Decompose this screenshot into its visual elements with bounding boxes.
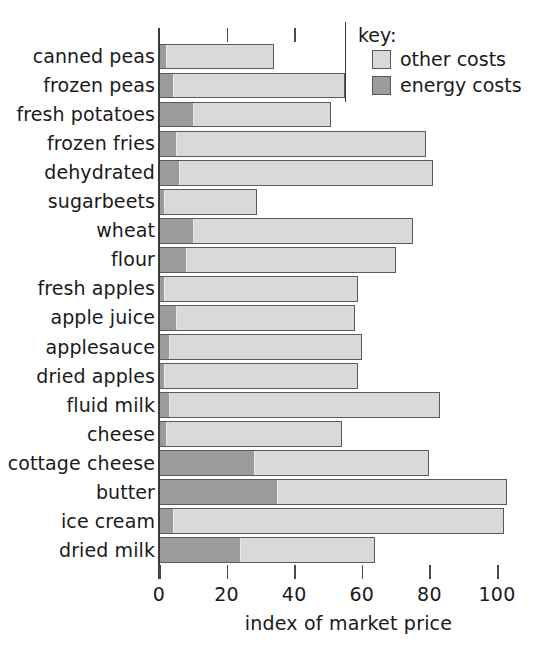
bar-row: ice cream [0, 507, 547, 536]
bar-segment-other-costs [167, 422, 342, 446]
x-tick-label: 20 [214, 583, 239, 605]
bar-row: apple juice [0, 303, 547, 332]
bar-segment-other-costs [165, 364, 358, 388]
category-label: cottage cheese [0, 449, 155, 478]
category-label: applesauce [0, 333, 155, 362]
bar-row: fresh apples [0, 274, 547, 303]
bar-segment-energy-costs [160, 335, 170, 359]
bar-segment-energy-costs [160, 161, 180, 185]
legend-swatch-energy-costs [372, 76, 391, 95]
category-label: dehydrated [0, 158, 155, 187]
category-label: sugarbeets [0, 187, 155, 216]
y-axis-line [158, 28, 160, 579]
bar-segment-other-costs [167, 45, 274, 69]
bar-chart: canned peasfrozen peasfresh potatoesfroz… [0, 0, 547, 654]
x-tick-label: 100 [478, 583, 515, 605]
bar-segment-energy-costs [160, 422, 167, 446]
bar-segment-energy-costs [160, 509, 174, 533]
category-label: ice cream [0, 507, 155, 536]
bar-segment-other-costs [165, 190, 257, 214]
stacked-bar [159, 334, 362, 360]
category-label: fluid milk [0, 391, 155, 420]
bar-segment-energy-costs [160, 538, 241, 562]
bar-segment-other-costs [177, 306, 355, 330]
bar-segment-energy-costs [160, 451, 255, 475]
bar-row: fresh potatoes [0, 100, 547, 129]
bar-row: flour [0, 245, 547, 274]
x-axis-label-text: index of market price [95, 612, 452, 634]
stacked-bar [159, 102, 331, 128]
stacked-bar [159, 479, 507, 505]
bar-segment-energy-costs [160, 219, 194, 243]
x-tick-label: 80 [417, 583, 442, 605]
bar-segment-other-costs [255, 451, 430, 475]
legend-item-other-costs: other costs [372, 46, 541, 72]
category-label: dried apples [0, 362, 155, 391]
category-label: apple juice [0, 303, 155, 332]
stacked-bar [159, 305, 355, 331]
stacked-bar [159, 363, 358, 389]
bar-row: dried apples [0, 362, 547, 391]
category-label: frozen fries [0, 129, 155, 158]
stacked-bar [159, 131, 426, 157]
category-label: wheat [0, 216, 155, 245]
stacked-bar [159, 421, 342, 447]
x-axis-label: index of market price [0, 612, 547, 634]
bar-row: fluid milk [0, 391, 547, 420]
bar-segment-other-costs [278, 480, 507, 504]
bar-segment-other-costs [180, 161, 433, 185]
stacked-bar [159, 189, 257, 215]
bar-segment-energy-costs [160, 74, 174, 98]
legend-item-energy-costs: energy costs [372, 72, 541, 98]
stacked-bar [159, 160, 433, 186]
bar-segment-energy-costs [160, 306, 177, 330]
legend-label-other-costs: other costs [400, 50, 506, 69]
stacked-bar [159, 276, 358, 302]
legend-label-energy-costs: energy costs [400, 76, 522, 95]
category-label: fresh apples [0, 274, 155, 303]
stacked-bar [159, 247, 396, 273]
legend-title: key: [358, 24, 541, 46]
bar-segment-energy-costs [160, 480, 278, 504]
x-tick-top [227, 28, 229, 42]
bar-segment-other-costs [165, 277, 358, 301]
bar-row: wheat [0, 216, 547, 245]
stacked-bar [159, 218, 413, 244]
stacked-bar [159, 537, 375, 563]
x-tick-bottom [429, 565, 431, 579]
bar-row: sugarbeets [0, 187, 547, 216]
x-tick-bottom [362, 565, 364, 579]
x-tick-label: 40 [282, 583, 307, 605]
x-tick-top [294, 28, 296, 42]
bar-segment-other-costs [170, 393, 439, 417]
chart-legend: key: other costs energy costs [345, 22, 541, 102]
bar-segment-other-costs [194, 103, 332, 127]
category-label: butter [0, 478, 155, 507]
stacked-bar [159, 450, 429, 476]
bar-row: butter [0, 478, 547, 507]
bar-segment-energy-costs [160, 103, 194, 127]
category-label: dried milk [0, 536, 155, 565]
stacked-bar [159, 508, 504, 534]
category-label: frozen peas [0, 71, 155, 100]
legend-swatch-other-costs [372, 50, 391, 69]
bar-segment-energy-costs [160, 393, 170, 417]
bar-segment-energy-costs [160, 132, 177, 156]
category-label: fresh potatoes [0, 100, 155, 129]
bar-segment-other-costs [170, 335, 362, 359]
bar-segment-other-costs [187, 248, 396, 272]
bar-segment-energy-costs [160, 45, 167, 69]
stacked-bar [159, 73, 345, 99]
bar-segment-other-costs [194, 219, 413, 243]
bar-row: cheese [0, 420, 547, 449]
bar-segment-other-costs [177, 132, 426, 156]
x-tick-label: 0 [153, 583, 165, 605]
stacked-bar [159, 392, 440, 418]
x-tick-bottom [497, 565, 499, 579]
bar-segment-other-costs [174, 509, 504, 533]
bar-row: dried milk [0, 536, 547, 565]
bar-row: dehydrated [0, 158, 547, 187]
bar-segment-other-costs [174, 74, 345, 98]
bar-row: cottage cheese [0, 449, 547, 478]
bar-row: frozen fries [0, 129, 547, 158]
